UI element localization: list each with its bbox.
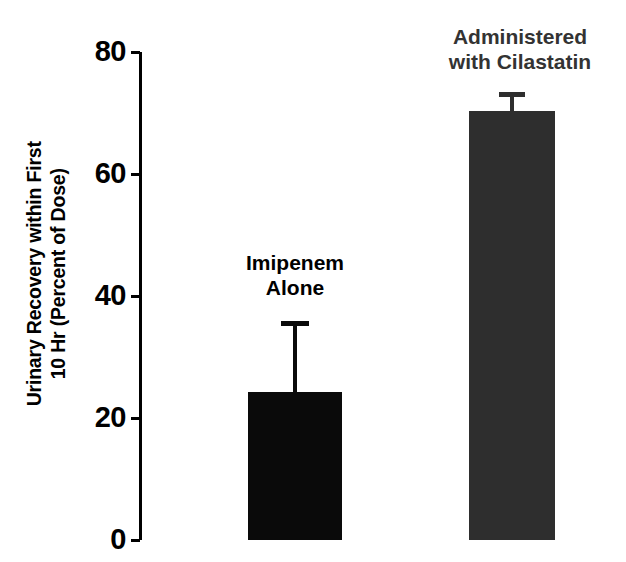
y-axis-tick-label-80: 80 [66, 37, 126, 66]
bar-label-cilastatin-line-2: with Cilastatin [420, 49, 620, 74]
bar-administered-with-cilastatin [469, 111, 555, 540]
bar-label-imipenem-line-1: Imipenem [195, 250, 395, 275]
y-axis-tick-20 [131, 417, 140, 420]
error-bar-cap-imipenem-alone [281, 321, 309, 326]
error-bar-cap-administered-with-cilastatin [499, 92, 525, 97]
bar-label-administered-with-cilastatin: Administered with Cilastatin [420, 24, 620, 74]
bar-imipenem-alone [248, 392, 342, 540]
y-axis-tick-80 [131, 51, 140, 54]
bar-chart-figure: 020406080 Urinary Recovery within First … [0, 0, 626, 562]
error-bar-stem-imipenem-alone [293, 321, 297, 394]
y-axis-tick-label-40: 40 [66, 281, 126, 310]
y-axis-tick-label-20: 20 [66, 403, 126, 432]
y-axis-title-line-1: Urinary Recovery within First [23, 59, 47, 489]
y-axis-tick-60 [131, 173, 140, 176]
bar-label-cilastatin-line-1: Administered [420, 24, 620, 49]
y-axis-title-line-2: 10 Hr (Percent of Dose) [47, 59, 71, 489]
y-axis-title: Urinary Recovery within First 10 Hr (Per… [23, 59, 71, 489]
y-axis-tick-label-0: 0 [66, 525, 126, 554]
bar-label-imipenem-alone: Imipenem Alone [195, 250, 395, 300]
y-axis-tick-0 [131, 539, 140, 542]
y-axis-tick-40 [131, 295, 140, 298]
bar-label-imipenem-line-2: Alone [195, 275, 395, 300]
y-axis-tick-label-60: 60 [66, 159, 126, 188]
